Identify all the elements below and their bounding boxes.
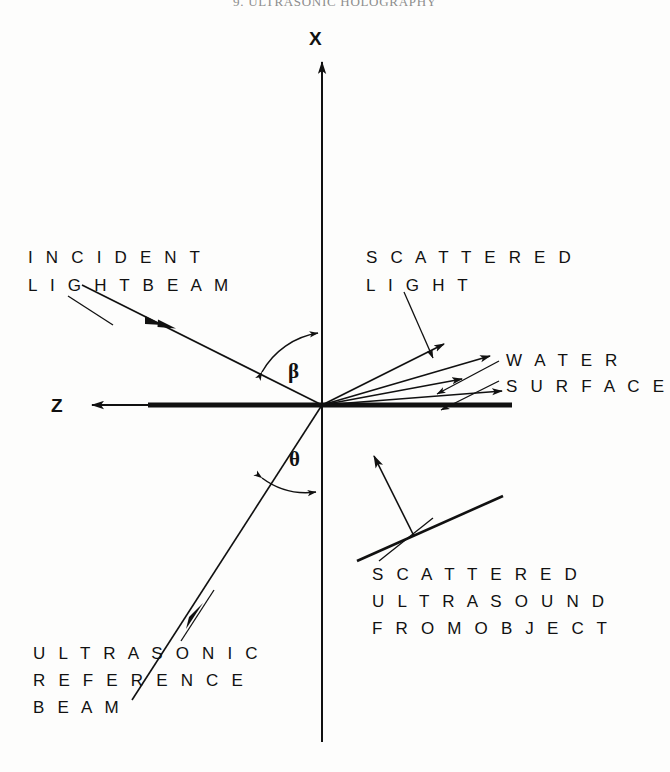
leader-lines bbox=[68, 292, 499, 641]
theta-symbol: θ bbox=[289, 447, 300, 471]
leader-incident-light bbox=[68, 296, 113, 325]
ultrasonic-reference-beam-label: U L T R A S O N I C R E F E R E N C E B … bbox=[33, 644, 262, 717]
leader-water-surface-upper bbox=[437, 361, 499, 394]
object-scatter-arrow bbox=[374, 456, 414, 536]
leader-scattered-light bbox=[404, 292, 433, 358]
beta-symbol: β bbox=[288, 359, 299, 383]
scattered-ultrasound-label-line-2: U L T R A S O U N D bbox=[372, 592, 608, 611]
water-surface-label-line-1: W A T E R bbox=[506, 351, 622, 370]
incident-light-beam-label-line-2: L I G H T B E A M bbox=[28, 276, 232, 295]
ultrasonic-reference-beam-label-line-1: U L T R A S O N I C bbox=[33, 644, 262, 663]
incident-light-beam-label: I N C I D E N T L I G H T B E A M bbox=[28, 248, 232, 295]
scattered-light-label-line-2: L I G H T bbox=[366, 276, 472, 295]
ultrasonic-reference-beam-label-line-3: B E A M bbox=[33, 698, 123, 717]
scattered-light-label-line-1: S C A T T E R E D bbox=[366, 248, 575, 267]
scattered-ultrasound-label-line-1: S C A T T E R E D bbox=[372, 565, 581, 584]
ultrasonic-holography-diagram: X Z β θ bbox=[0, 0, 670, 772]
z-axis-label: Z bbox=[51, 395, 63, 416]
scattered-ultrasound-label-line-3: F R O M O B J E C T bbox=[372, 619, 611, 638]
scattered-ultrasound-label: S C A T T E R E D U L T R A S O U N D F … bbox=[372, 565, 611, 638]
figure-root: 9. ULTRASONIC HOLOGRAPHY X Z bbox=[0, 0, 670, 772]
leader-scattered-ultrasound bbox=[379, 518, 433, 561]
scattered-light-label: S C A T T E R E D L I G H T bbox=[366, 248, 575, 295]
x-axis-label: X bbox=[309, 28, 322, 49]
object-bar bbox=[357, 496, 503, 561]
incident-light-beam-label-line-1: I N C I D E N T bbox=[28, 248, 204, 267]
water-surface-label-line-2: S U R F A C E bbox=[506, 377, 668, 396]
water-surface-label: W A T E R S U R F A C E bbox=[506, 351, 668, 396]
axis-group bbox=[92, 62, 322, 742]
ultrasonic-reference-beam-label-line-2: R E F E R E N C E bbox=[33, 671, 247, 690]
